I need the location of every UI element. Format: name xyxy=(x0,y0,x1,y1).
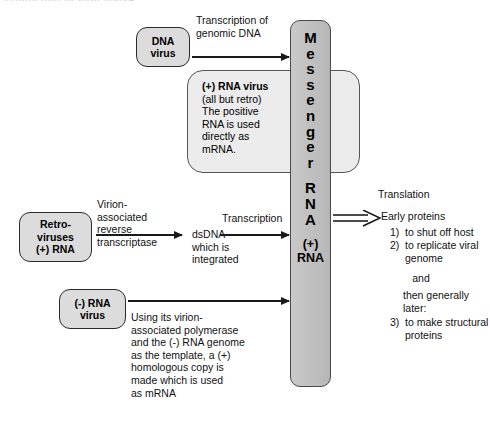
dna-virus-box: DNA virus xyxy=(136,27,190,67)
column-footer-line2: RNA xyxy=(297,251,324,265)
arrow-dsdna-transcription xyxy=(220,234,289,236)
column-letter: e xyxy=(304,139,317,155)
column-letter: e xyxy=(304,46,317,62)
column-letter: r xyxy=(304,155,317,171)
protein-item-2: 2) to replicate viral genome xyxy=(390,239,489,265)
neg-rna-virus-line1: (-) RNA xyxy=(74,297,110,310)
proteins-later-note: then generally later: xyxy=(403,289,489,315)
arrow-reverse-transcription xyxy=(96,234,182,236)
messenger-rna-footer: (+) RNA xyxy=(297,237,324,265)
protein-item-3-number: 3) xyxy=(390,316,405,342)
column-letter: s xyxy=(304,77,317,93)
pos-rna-virus-note: (+) RNA virus (all but retro) The positi… xyxy=(187,70,360,173)
label-translation: Translation xyxy=(378,188,430,201)
column-letter: A xyxy=(304,212,317,228)
column-footer-line1: (+) xyxy=(297,237,324,251)
column-letter: e xyxy=(304,92,317,108)
column-letter: g xyxy=(304,124,317,140)
cut-off-heading: Production of viral mRNA xyxy=(4,0,135,1)
messenger-rna-column: MessengerRNA (+) RNA xyxy=(290,20,331,387)
column-letter: M xyxy=(304,30,317,46)
retroviruses-line3: (+) RNA xyxy=(36,243,75,256)
protein-item-1: 1) to shut off host xyxy=(390,226,489,239)
column-letter: N xyxy=(304,196,317,212)
translation-open-arrow xyxy=(332,210,382,234)
retroviruses-box: Retro- viruses (+) RNA xyxy=(19,212,92,262)
arrow-neg-rna-to-mrna xyxy=(128,300,289,302)
column-letter: s xyxy=(304,61,317,77)
protein-item-2-text: to replicate viral genome xyxy=(405,239,489,265)
label-neg-rna-mechanism: Using its virion- associated polymerase … xyxy=(131,311,291,399)
dna-virus-line1: DNA xyxy=(152,35,175,48)
protein-item-3: 3) to make structural proteins xyxy=(390,316,489,342)
messenger-rna-letters: MessengerRNA xyxy=(304,21,317,227)
protein-item-1-text: to shut off host xyxy=(405,226,489,239)
column-letter: R xyxy=(304,180,317,196)
label-virion-associated-rt: Virion- associated reverse transcriptase xyxy=(97,198,187,248)
early-proteins-list: Early proteins 1) to shut off host 2) to… xyxy=(381,210,489,342)
protein-item-2-number: 2) xyxy=(390,239,405,265)
protein-item-3-text: to make structural proteins xyxy=(405,316,489,342)
early-proteins-items-late: 3) to make structural proteins xyxy=(381,316,489,342)
early-proteins-heading: Early proteins xyxy=(381,210,489,223)
neg-rna-virus-line2: virus xyxy=(80,309,105,322)
dna-virus-line2: virus xyxy=(150,47,175,60)
early-proteins-items: 1) to shut off host 2) to replicate vira… xyxy=(381,226,489,265)
column-letter: n xyxy=(304,108,317,124)
retroviruses-line2: viruses xyxy=(37,231,74,244)
diagram-canvas: Production of viral mRNA (+) RNA virus (… xyxy=(0,0,490,421)
arrow-dna-transcription xyxy=(192,56,289,58)
neg-rna-virus-box: (-) RNA virus xyxy=(59,289,126,329)
retroviruses-line1: Retro- xyxy=(40,218,71,231)
proteins-and-connector: and xyxy=(381,272,489,285)
protein-item-1-number: 1) xyxy=(390,226,405,239)
